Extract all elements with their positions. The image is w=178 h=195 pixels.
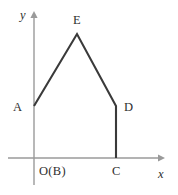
point-label-e: E [73, 14, 81, 27]
x-axis-label: x [158, 168, 164, 181]
y-axis-label: y [20, 9, 26, 22]
x-axis-arrowhead-icon [158, 154, 165, 161]
polyline-aedc [34, 34, 116, 158]
figure-canvas [0, 0, 178, 195]
point-label-a: A [13, 101, 22, 114]
point-label-d: D [124, 101, 133, 114]
point-label-origin-b: O(B) [39, 165, 66, 178]
point-label-c: C [112, 165, 120, 178]
y-axis-arrowhead-icon [30, 11, 37, 18]
geometry-figure: y x A E D C O(B) [0, 0, 178, 195]
